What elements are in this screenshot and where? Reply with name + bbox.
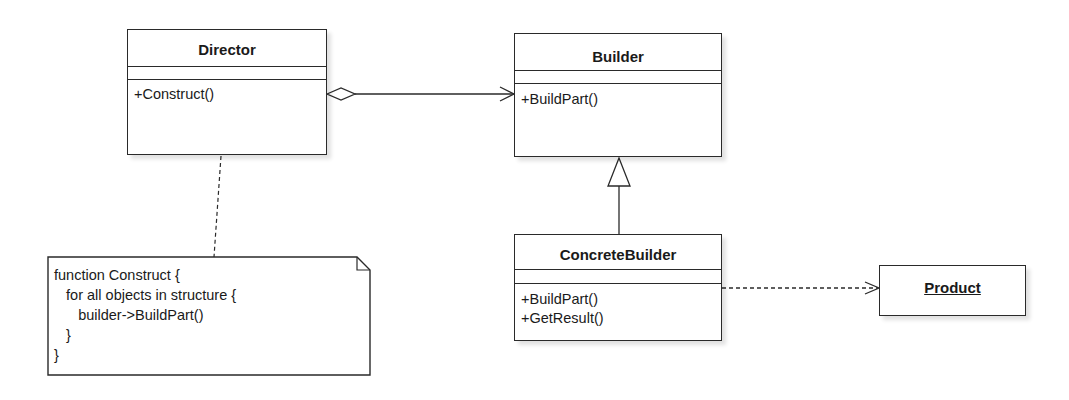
note-line: for all objects in structure {	[54, 286, 236, 306]
attributes-divider	[128, 66, 326, 67]
note-line: builder->BuildPart()	[54, 306, 204, 326]
note-line: }	[54, 326, 71, 346]
class-name: ConcreteBuilder	[515, 246, 721, 263]
generalization-connector	[608, 158, 630, 234]
operations-divider	[515, 83, 721, 84]
operation: +BuildPart()	[521, 290, 604, 309]
operation: +Construct()	[134, 85, 214, 104]
note-line: function Construct {	[54, 266, 180, 286]
operations-divider	[128, 79, 326, 80]
note-anchor-line	[214, 156, 221, 257]
class-name: Director	[128, 41, 326, 58]
attributes-divider	[515, 269, 721, 270]
operations-list: +Construct()	[134, 85, 214, 104]
operation: +GetResult()	[521, 309, 604, 328]
class-name: Builder	[515, 48, 721, 65]
operation: +BuildPart()	[521, 90, 598, 109]
aggregation-diamond-icon	[327, 88, 355, 100]
hollow-triangle-icon	[608, 158, 630, 186]
class-builder[interactable]: Builder +BuildPart()	[514, 33, 722, 157]
operations-divider	[515, 283, 721, 284]
class-director[interactable]: Director +Construct()	[127, 29, 327, 155]
object-product[interactable]: Product	[879, 265, 1026, 316]
class-concrete-builder[interactable]: ConcreteBuilder +BuildPart() +GetResult(…	[514, 234, 722, 341]
dependency-connector	[722, 282, 879, 294]
attributes-divider	[515, 70, 721, 71]
aggregation-connector	[327, 87, 514, 101]
operations-list: +BuildPart() +GetResult()	[521, 290, 604, 328]
operations-list: +BuildPart()	[521, 90, 598, 109]
note-line: }	[54, 346, 59, 366]
object-name: Product	[880, 279, 1025, 296]
